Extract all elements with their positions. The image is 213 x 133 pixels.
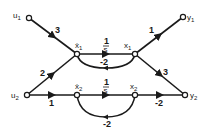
- signal-flow-graph: u1 u2 y1 y2 ẋ1 x1 ẋ2 x2 3 2 1 1 s -2 1 s…: [0, 0, 213, 133]
- gain-u1-xdot1: 3: [55, 25, 60, 35]
- gain-int1-den: s: [104, 45, 108, 54]
- gain-u2-xdot1: 2: [40, 68, 45, 78]
- edge-x1-y1: [135, 17, 183, 54]
- node-xdot2: [74, 92, 79, 97]
- node-xdot1: [74, 51, 79, 56]
- label-u1: u1: [13, 11, 21, 21]
- gain-feedback-1: -2: [100, 57, 108, 67]
- label-xdot2: ẋ2: [75, 82, 83, 92]
- label-xdot1: ẋ1: [75, 41, 83, 51]
- edge-u2-xdot1: [27, 54, 77, 95]
- edge-x1-y2: [135, 54, 185, 95]
- label-x1: x1: [124, 41, 132, 51]
- node-x2: [132, 92, 137, 97]
- node-y2: [182, 92, 187, 97]
- gain-u2-xdot2: 1: [49, 98, 54, 108]
- label-x2: x2: [130, 82, 138, 92]
- node-u2: [24, 92, 29, 97]
- label-y2: y2: [190, 91, 198, 101]
- gain-x1-y2: 3: [163, 67, 168, 77]
- gain-x1-y1: 1: [149, 25, 154, 35]
- node-y1: [180, 14, 185, 19]
- gain-feedback-2: -2: [103, 119, 111, 129]
- node-u1: [26, 15, 31, 20]
- edge-u1-xdot1: [29, 18, 77, 54]
- gain-x2-y2: -2: [155, 98, 163, 108]
- label-u2: u2: [11, 91, 19, 101]
- gain-int2-den: s: [104, 86, 108, 95]
- node-x1: [132, 51, 137, 56]
- edge-feedback-x2-xdot2: [77, 95, 135, 120]
- label-y1: y1: [187, 13, 195, 23]
